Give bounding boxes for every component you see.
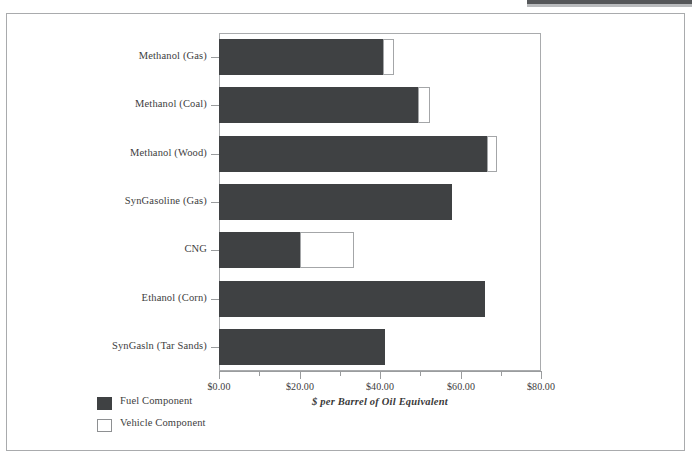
- category-label: Methanol (Gas): [20, 50, 207, 61]
- bar-row: [219, 39, 541, 75]
- category-label: Methanol (Coal): [20, 98, 207, 109]
- category-label: Ethanol (Corn): [20, 292, 207, 303]
- x-axis-title: $ per Barrel of Oil Equivalent: [219, 396, 541, 407]
- category-label: CNG: [20, 243, 207, 254]
- x-tick-major: [380, 371, 381, 379]
- bar-row: [219, 87, 541, 123]
- bar-segment-fuel: [219, 136, 487, 172]
- category-label: SynGasln (Tar Sands): [20, 340, 207, 351]
- x-tick-minor: [340, 371, 341, 376]
- bar-row: [219, 136, 541, 172]
- legend-swatch-vehicle-icon: [97, 419, 112, 432]
- category-tick: [211, 57, 219, 58]
- x-tick-minor: [259, 371, 260, 376]
- legend-label-fuel: Fuel Component: [120, 395, 192, 406]
- category-tick: [211, 105, 219, 106]
- category-tick: [211, 202, 219, 203]
- x-tick-label: $40.00: [350, 381, 410, 392]
- bar-segment-fuel: [219, 39, 383, 75]
- x-tick-minor: [420, 371, 421, 376]
- x-tick-major: [300, 371, 301, 379]
- bar-segment-fuel: [219, 184, 452, 220]
- bar-row: [219, 281, 541, 317]
- x-tick-label: $0.00: [189, 381, 249, 392]
- x-tick-major: [461, 371, 462, 379]
- legend-label-vehicle: Vehicle Component: [120, 417, 206, 428]
- category-tick: [211, 250, 219, 251]
- bar-segment-fuel: [219, 329, 385, 365]
- bar-segment-fuel: [219, 232, 300, 268]
- bar-segment-vehicle: [383, 39, 393, 75]
- bar-segment-fuel: [219, 87, 418, 123]
- bar-segment-vehicle: [487, 136, 497, 172]
- category-label: SynGasoline (Gas): [20, 195, 207, 206]
- category-tick: [211, 347, 219, 348]
- category-tick: [211, 154, 219, 155]
- legend-swatch-fuel-icon: [97, 397, 112, 410]
- x-tick-major: [219, 371, 220, 379]
- x-tick-label: $60.00: [431, 381, 491, 392]
- bar-segment-vehicle: [300, 232, 354, 268]
- bar-segment-fuel: [219, 281, 485, 317]
- bar-row: [219, 184, 541, 220]
- bar-row: [219, 329, 541, 365]
- bar-segment-vehicle: [418, 87, 430, 123]
- category-tick: [211, 299, 219, 300]
- x-tick-label: $80.00: [511, 381, 571, 392]
- category-label: Methanol (Wood): [20, 147, 207, 158]
- bar-row: [219, 232, 541, 268]
- x-tick-major: [541, 371, 542, 379]
- bars-layer: [0, 0, 692, 458]
- x-tick-minor: [501, 371, 502, 376]
- x-tick-label: $20.00: [270, 381, 330, 392]
